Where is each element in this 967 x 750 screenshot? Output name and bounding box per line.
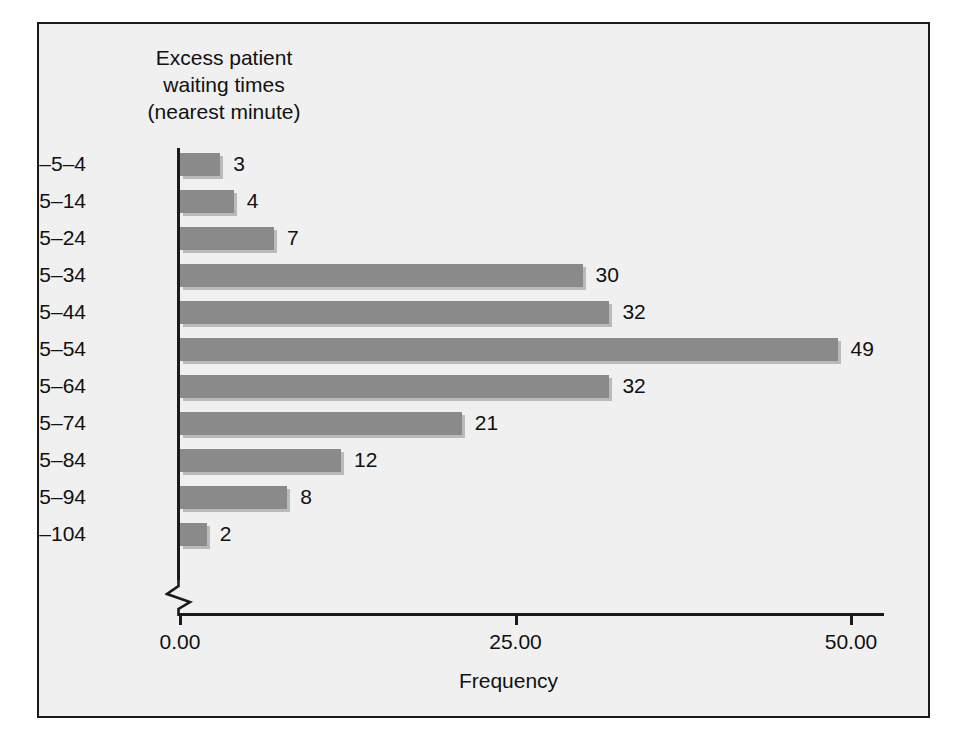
category-label: 65–74	[37, 411, 86, 435]
bar-row: 95–1042	[39, 518, 930, 555]
bar-row: 55–6432	[39, 370, 930, 407]
x-axis-tick-label: 50.00	[825, 630, 878, 654]
bar	[180, 153, 220, 176]
bar	[180, 264, 583, 287]
bar	[180, 227, 274, 250]
plot-area: 0.0025.0050.00 –5–435–14415–24725–343035…	[39, 24, 928, 716]
bar-value-label: 32	[622, 374, 645, 398]
category-label: 75–84	[37, 448, 86, 472]
x-axis-tick-label: 0.00	[160, 630, 201, 654]
bar-value-label: 32	[622, 300, 645, 324]
bar-value-label: 49	[851, 337, 874, 361]
bar	[180, 486, 287, 509]
bar-row: 75–8412	[39, 444, 930, 481]
bar-row: 85–948	[39, 481, 930, 518]
x-axis-tick	[850, 613, 853, 625]
category-label: 35–44	[37, 300, 86, 324]
category-label: 85–94	[37, 485, 86, 509]
x-axis-tick-label: 25.00	[489, 630, 542, 654]
chart-figure: Excess patient waiting times (nearest mi…	[37, 22, 930, 718]
bar	[180, 412, 462, 435]
x-axis-title-text: Frequency	[459, 669, 558, 692]
bar-value-label: 21	[475, 411, 498, 435]
bar	[180, 190, 234, 213]
bar-row: 5–144	[39, 185, 930, 222]
frequency-axis-line	[178, 613, 884, 616]
bar	[180, 338, 838, 361]
category-label: 95–104	[37, 522, 86, 546]
bar	[180, 449, 341, 472]
bar-value-label: 3	[233, 152, 245, 176]
category-label: 5–14	[39, 189, 86, 213]
bar-row: 65–7421	[39, 407, 930, 444]
category-label: 25–34	[37, 263, 86, 287]
category-label: 45–54	[37, 337, 86, 361]
bar-row: 35–4432	[39, 296, 930, 333]
x-axis-tick	[515, 613, 518, 625]
x-axis-tick	[179, 613, 182, 625]
bar-row: 15–247	[39, 222, 930, 259]
bar-row: 45–5449	[39, 333, 930, 370]
bar	[180, 375, 609, 398]
x-axis-title: Frequency	[39, 669, 928, 693]
category-label: 15–24	[37, 226, 86, 250]
axis-break-icon	[165, 576, 195, 616]
bar-value-label: 7	[287, 226, 299, 250]
category-label: –5–4	[39, 152, 86, 176]
bar-row: 25–3430	[39, 259, 930, 296]
bar	[180, 301, 609, 324]
bar	[180, 523, 207, 546]
bar-value-label: 4	[247, 189, 259, 213]
bar-value-label: 12	[354, 448, 377, 472]
bar-value-label: 2	[220, 522, 232, 546]
bar-value-label: 30	[596, 263, 619, 287]
bar-value-label: 8	[300, 485, 312, 509]
category-label: 55–64	[37, 374, 86, 398]
bar-row: –5–43	[39, 148, 930, 185]
